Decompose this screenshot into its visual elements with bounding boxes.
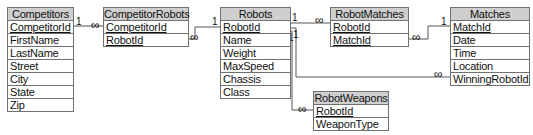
field-competitorid: CompetitorId [104,21,188,34]
field-time: Time [451,47,529,60]
field-matchid: MatchId [451,21,529,34]
table-header: Matches [451,8,529,21]
field-chassis: Chassis [221,73,290,86]
table-matches: Matches MatchId Date Time Location Winni… [450,7,530,86]
field-firstname: FirstName [8,34,73,47]
field-name: Name [221,34,290,47]
field-robotid: RobotId [314,105,388,118]
table-header: CompetitorRobots [104,8,188,21]
field-street: Street [8,60,73,73]
field-maxspeed: MaxSpeed [221,60,290,73]
field-winningrobotid: WinningRobotId [451,73,529,85]
field-matchid: MatchId [331,34,408,46]
table-robots: Robots RobotId Name Weight MaxSpeed Chas… [220,7,291,99]
cardinality-many: ∞ [412,32,421,42]
cardinality-many: ∞ [315,15,324,25]
cardinality-one: 1 [292,13,298,23]
table-header: RobotMatches [331,8,408,21]
table-header: Robots [221,8,290,21]
cardinality-many: ∞ [190,32,199,42]
cardinality-many: ∞ [91,20,100,30]
field-date: Date [451,34,529,47]
field-weapontype: WeaponType [314,118,388,130]
cardinality-one: 1 [212,17,218,27]
field-competitorid: CompetitorId [8,21,73,34]
field-weight: Weight [221,47,290,60]
cardinality-one: 1 [441,17,447,27]
field-lastname: LastName [8,47,73,60]
field-robotid: RobotId [104,34,188,46]
table-competitor-robots: CompetitorRobots CompetitorId RobotId [103,7,189,47]
field-robotid: RobotId [331,21,408,34]
field-robotid: RobotId [221,21,290,34]
field-zip: Zip [8,99,73,111]
cardinality-many: ∞ [298,104,307,114]
table-header: RobotWeapons [314,92,388,105]
table-competitors: Competitors CompetitorId FirstName LastN… [7,7,74,112]
field-location: Location [451,60,529,73]
field-class: Class [221,86,290,98]
field-city: City [8,73,73,86]
table-robot-matches: RobotMatches RobotId MatchId [330,7,409,47]
table-header: Competitors [8,8,73,21]
field-state: State [8,86,73,99]
cardinality-one: 1 [76,17,82,27]
table-robot-weapons: RobotWeapons RobotId WeaponType [313,91,389,131]
cardinality-many: ∞ [434,69,443,79]
